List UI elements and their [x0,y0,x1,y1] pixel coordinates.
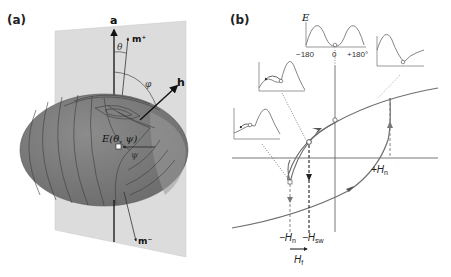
energy-function-label: E(θ, ψ) [101,133,137,144]
minus-hn-label: −Hn [279,232,296,244]
nucleation-jump-plus-hn-arrow [387,121,393,128]
panel-a-label: (a) [7,13,26,27]
h-label: h [177,76,185,89]
theta-label: θ [117,42,123,52]
svg-text:0: 0 [332,50,337,59]
svg-text:−180: −180 [296,50,315,59]
svg-text:E: E [301,12,310,23]
energy-inset-switching-field [259,61,305,91]
state-point-hn [288,180,292,184]
energy-inset-nucleation-field [234,108,280,139]
m-minus-label: m⁻ [138,236,152,246]
plus-hn-label: +Hn [371,164,388,176]
panel-b: (b) +Hn −Hn −Hsw Hf [230,12,438,266]
energy-inset-zero-field: E −180 0 +180° [296,12,368,59]
state-point-hsw [307,140,312,145]
leader-upper-left [282,93,306,140]
psi-label: ψ [131,150,139,160]
phi-label-upper: φ [145,79,152,89]
hf-label: Hf [294,254,303,266]
leader-lower-left [262,144,289,180]
a-axis-label: a [110,14,117,27]
minus-hsw-label: −Hsw [302,232,325,244]
figure-canvas: (a) [0,0,451,277]
switching-jump-hsw-arrow [306,174,312,181]
energy-inset-positive-field [377,34,424,66]
panel-b-label: (b) [230,13,250,27]
upper-branch-segment [290,122,336,182]
svg-text:+180°: +180° [347,50,368,59]
energy-point-marker [116,144,121,149]
m-plus-label: m⁺ [132,34,146,44]
leader-upper-right [378,75,400,98]
state-point-zero [333,118,337,122]
upper-hysteresis-branch [288,88,438,182]
nucleation-jump-hn-arrow [287,197,293,203]
panel-a: (a) [7,13,188,257]
lower-hysteresis-branch [232,98,390,228]
